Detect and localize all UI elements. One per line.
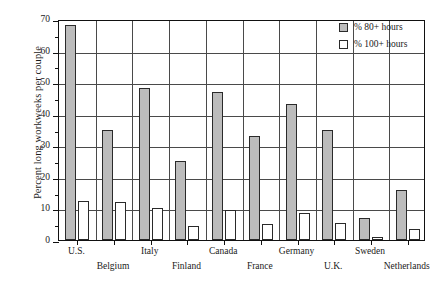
gridline-horizontal [59,84,424,85]
gridline-horizontal [59,210,424,211]
legend-label-1: % 100+ hours [354,39,407,49]
legend-label-0: % 80+ hours [354,22,403,32]
legend-swatch-white-icon [339,40,348,49]
bar-100plus-france [262,224,273,240]
y-axis-tick [55,226,59,227]
y-axis-label-10: 10 [8,204,50,214]
gridline-vertical [206,21,207,240]
x-axis-label-netherlands: Netherlands [384,262,430,272]
legend-swatch-gray-icon [339,23,348,32]
y-axis-label-70: 70 [8,15,50,25]
gridline-vertical [132,21,133,240]
y-axis-label-20: 20 [8,173,50,183]
bar-80plus-uk [322,130,333,241]
bar-80plus-netherlands [396,190,407,241]
y-axis-tick [55,37,59,38]
legend-item-1: % 100+ hours [339,39,407,49]
x-axis-label-us: U.S. [68,247,85,257]
x-axis-tick [114,240,115,245]
bar-80plus-france [249,136,260,240]
gridline-horizontal [59,147,424,148]
y-axis-tick [53,147,59,148]
bar-80plus-us [65,25,76,240]
x-axis-tick [261,240,262,245]
bar-100plus-netherlands [409,229,420,240]
bar-80plus-canada [212,92,223,240]
bar-100plus-sweden [372,237,383,240]
x-axis-tick [151,240,152,245]
gridline-vertical [279,21,280,240]
x-axis-tick [408,240,409,245]
x-axis-tick [224,240,225,245]
x-axis-label-germany: Germany [279,247,314,257]
x-axis-label-france: France [247,262,273,272]
x-axis-label-belgium: Belgium [97,262,130,272]
bar-80plus-sweden [359,218,370,240]
y-axis-tick [55,163,59,164]
x-axis-label-uk: U.K. [324,262,342,272]
gridline-vertical [243,21,244,240]
gridline-horizontal [59,53,424,54]
y-axis-tick [53,84,59,85]
gridline-vertical [96,21,97,240]
x-axis-tick [187,240,188,245]
y-axis-tick [55,68,59,69]
bar-100plus-finland [188,226,199,240]
x-axis-label-canada: Canada [209,247,238,257]
y-axis-tick [53,210,59,211]
x-axis-tick [77,240,78,245]
y-axis-label-40: 40 [8,110,50,120]
gridline-horizontal [59,179,424,180]
y-axis-label-0: 0 [8,236,50,246]
plot-area [58,20,425,241]
gridline-vertical [169,21,170,240]
bar-80plus-belgium [102,130,113,241]
y-axis-tick [55,100,59,101]
y-axis-tick [53,116,59,117]
x-axis-label-finland: Finland [172,262,201,272]
y-axis-tick [53,242,59,243]
bar-100plus-italy [152,208,163,240]
y-axis-label-60: 60 [8,47,50,57]
gridline-vertical [353,21,354,240]
x-axis-label-sweden: Sweden [355,247,385,257]
x-axis-tick [334,240,335,245]
bar-80plus-germany [286,104,297,240]
x-axis-tick [371,240,372,245]
gridline-vertical [316,21,317,240]
y-axis-tick [55,195,59,196]
y-axis-tick [53,179,59,180]
y-axis-label-50: 50 [8,78,50,88]
bar-100plus-us [78,201,89,240]
gridline-horizontal [59,116,424,117]
gridline-vertical [389,21,390,240]
y-axis-tick [55,132,59,133]
x-axis-label-italy: Italy [141,247,158,257]
bar-100plus-canada [225,210,236,240]
y-axis-tick [53,53,59,54]
bar-100plus-germany [299,213,310,240]
x-axis-tick [298,240,299,245]
bar-100plus-belgium [115,202,126,240]
y-axis-tick [53,21,59,22]
bar-80plus-finland [175,161,186,240]
bar-100plus-uk [335,223,346,240]
chart-figure: Percent long workweeks per couple 010203… [0,0,435,283]
legend-item-0: % 80+ hours [339,22,403,32]
y-axis-label-30: 30 [8,141,50,151]
bar-80plus-italy [139,88,150,240]
